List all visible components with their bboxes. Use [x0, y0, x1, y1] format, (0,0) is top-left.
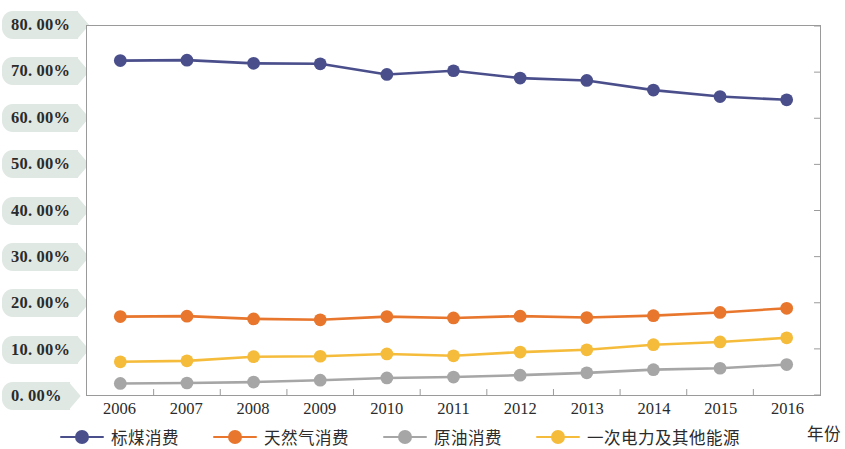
data-point [314, 313, 327, 326]
y-axis-tick-value: 20. 00% [2, 289, 78, 317]
chart-legend: 标煤消费天然气消费原油消费一次电力及其他能源 [60, 424, 780, 449]
x-axis-tick-label: 2010 [370, 399, 403, 419]
data-point [780, 331, 793, 344]
legend-marker-icon [60, 429, 104, 445]
data-point [314, 374, 327, 387]
data-point [714, 306, 727, 319]
y-axis: 0. 00%10. 00%20. 00%30. 00%40. 00%50. 00… [0, 0, 86, 400]
x-axis-tick-label: 2015 [704, 399, 737, 419]
y-axis-tick-label: 80. 00% [2, 13, 78, 37]
data-point [181, 310, 194, 323]
y-axis-tick-value: 10. 00% [2, 336, 78, 364]
y-axis-tick-value: 40. 00% [2, 197, 78, 225]
line-chart: 0. 00%10. 00%20. 00%30. 00%40. 00%50. 00… [0, 0, 845, 449]
series-1 [114, 54, 793, 106]
y-axis-tick-label: 10. 00% [2, 338, 78, 362]
x-axis-tick-label: 2013 [571, 399, 604, 419]
legend-item-label: 原油消费 [434, 425, 502, 449]
x-axis-tick-label: 2006 [103, 399, 136, 419]
data-point [514, 346, 527, 359]
legend-dot [398, 430, 412, 444]
data-point [647, 309, 660, 322]
legend-marker-icon [383, 429, 427, 445]
data-point [780, 358, 793, 371]
data-point [380, 348, 393, 361]
data-point [181, 54, 194, 67]
data-point [114, 377, 127, 390]
legend-dot [551, 430, 565, 444]
data-point [514, 369, 527, 382]
y-axis-tick-value: 50. 00% [2, 150, 78, 178]
legend-item[interactable]: 一次电力及其他能源 [536, 425, 740, 449]
data-point [380, 372, 393, 385]
x-axis-tick-label: 2008 [237, 399, 270, 419]
y-axis-tick-value: 70. 00% [2, 57, 78, 85]
legend-marker-icon [536, 429, 580, 445]
data-point [247, 313, 260, 326]
x-axis: 2006200720082009201020112012201320142015… [86, 399, 821, 425]
x-axis-tick-label: 2014 [637, 399, 670, 419]
plot-area [86, 25, 821, 396]
series-4 [114, 331, 793, 368]
data-point [380, 68, 393, 81]
y-axis-tick-label: 30. 00% [2, 245, 78, 269]
data-point [314, 57, 327, 70]
legend-item-label: 天然气消费 [264, 425, 349, 449]
y-axis-tick-value: 30. 00% [2, 243, 78, 271]
data-point [114, 54, 127, 67]
data-point [181, 355, 194, 368]
y-axis-tick-label: 40. 00% [2, 199, 78, 223]
legend-item-label: 标煤消费 [111, 425, 179, 449]
data-point [247, 376, 260, 389]
legend-dot [228, 430, 242, 444]
data-point [447, 349, 460, 362]
data-point [114, 310, 127, 323]
y-axis-tick-label: 60. 00% [2, 106, 78, 130]
y-axis-tick-label: 0. 00% [2, 384, 70, 408]
data-point [447, 371, 460, 384]
y-axis-tick-label: 20. 00% [2, 291, 78, 315]
data-point [447, 64, 460, 77]
data-point [780, 302, 793, 315]
data-point [514, 72, 527, 85]
data-point [580, 74, 593, 87]
x-axis-tick-label: 2011 [437, 399, 469, 419]
x-axis-tick-label: 2007 [170, 399, 203, 419]
data-point [647, 84, 660, 97]
data-point [714, 336, 727, 349]
data-point [114, 355, 127, 368]
data-point [647, 363, 660, 376]
data-point [780, 93, 793, 106]
legend-marker-icon [213, 429, 257, 445]
y-axis-tick-value: 80. 00% [2, 11, 78, 39]
series-canvas [87, 26, 820, 395]
y-axis-tick-label: 50. 00% [2, 152, 78, 176]
data-point [380, 310, 393, 323]
data-point [647, 338, 660, 351]
data-point [447, 312, 460, 325]
x-axis-tick-label: 2016 [771, 399, 804, 419]
legend-dot [75, 430, 89, 444]
legend-item[interactable]: 原油消费 [383, 425, 502, 449]
data-point [247, 350, 260, 363]
data-point [247, 57, 260, 70]
data-point [181, 377, 194, 390]
data-point [514, 310, 527, 323]
data-point [580, 343, 593, 356]
y-axis-tick-label: 70. 00% [2, 59, 78, 83]
legend-item-label: 一次电力及其他能源 [587, 425, 740, 449]
x-axis-tick-label: 2009 [303, 399, 336, 419]
x-axis-tick-label: 2012 [504, 399, 537, 419]
data-point [580, 311, 593, 324]
series-3 [114, 358, 793, 390]
data-point [580, 366, 593, 379]
data-point [714, 90, 727, 103]
y-axis-tick-value: 60. 00% [2, 104, 78, 132]
data-point [714, 362, 727, 375]
data-point [314, 350, 327, 363]
x-axis-title: 年份 [807, 421, 841, 445]
y-axis-tick-value: 0. 00% [2, 382, 70, 410]
legend-item[interactable]: 天然气消费 [213, 425, 349, 449]
series-2 [114, 302, 793, 326]
legend-item[interactable]: 标煤消费 [60, 425, 179, 449]
